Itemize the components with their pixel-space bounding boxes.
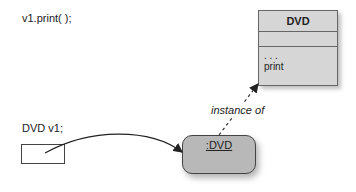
instance-of-label: instance of — [211, 104, 264, 116]
reference-arrow — [45, 134, 182, 153]
connectors — [0, 0, 356, 192]
